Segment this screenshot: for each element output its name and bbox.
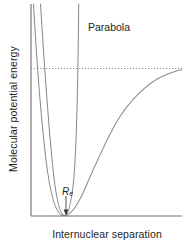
x-axis-label: Internuclear separation [22, 228, 192, 240]
parabola-curve [41, 4, 79, 216]
morse-potential-curve [34, 4, 183, 216]
plot-canvas [0, 0, 192, 252]
re-annotation-label: Re [62, 186, 73, 197]
parabola-annotation-label: Parabola [88, 21, 130, 33]
re-subscript: e [69, 190, 73, 197]
potential-energy-figure: Molecular potential energy Parabola Re I… [0, 0, 192, 252]
